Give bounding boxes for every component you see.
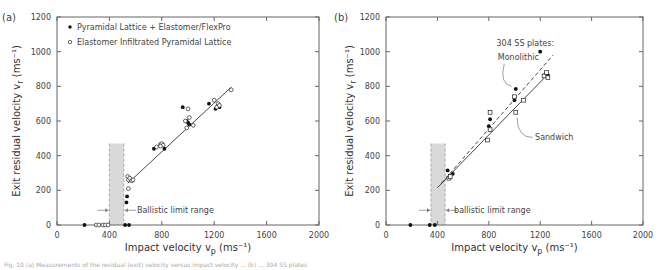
data-point-square [514,110,518,114]
data-point-open [218,104,222,108]
leader-line-sandwich [517,118,532,138]
data-point-square [546,76,550,80]
legend-label: Elastomer Infiltrated Pyramidal Lattice [77,38,231,47]
data-point-square [488,110,492,114]
data-point-filled [181,105,185,109]
x-tick-label: 1600 [256,231,276,240]
x-tick-label: 1200 [204,231,224,240]
data-point-open [229,88,233,92]
leader-line-monolithic [503,64,512,87]
figure-caption: Fig. 10 (a) Measurements of the residual… [4,261,307,269]
y-tick-label: 600 [36,117,51,126]
data-point-filled [514,87,518,91]
data-point-open [187,116,191,120]
y-tick-label: 800 [365,82,380,91]
y-tick-label: 400 [36,152,51,161]
x-axis-title: Impact velocity vp (ms⁻¹) [125,242,251,256]
chart-panel-a: 0400800120016002000020040060080010001200… [2,12,329,256]
x-tick-label: 1600 [581,231,601,240]
data-point-open [155,145,159,149]
data-point-square [448,175,452,179]
y-tick-label: 200 [365,186,380,195]
y-axis-title: Exit residual velocity vr (ms⁻¹) [344,45,358,197]
data-point-filled [446,169,450,173]
chart-panel-b: 0400800120016002000020040060080010001200… [334,12,653,256]
data-point-open [212,98,216,102]
x-tick-label: 400 [102,231,117,240]
annotation-text: Monolithic [498,53,539,62]
arrowhead-icon [427,208,430,212]
ballistic-limit-band [431,144,445,225]
panel-label: (a) [2,12,16,23]
data-point-open [126,187,130,191]
data-point-open [186,107,190,111]
data-point-square [513,95,517,99]
data-point-open [183,119,187,123]
y-tick-label: 1000 [31,48,51,57]
data-point-open [185,126,189,130]
x-tick-label: 800 [154,231,169,240]
data-point-filled [83,223,87,227]
data-point-open [159,144,163,148]
legend-label: Pyramidal Lattice + Elastomer/FlexPro [77,23,231,32]
legend-marker-open-icon [68,40,71,43]
ballistic-limit-band [109,144,123,225]
x-tick-label: 800 [481,231,496,240]
data-point-filled [123,223,127,227]
data-point-filled [488,117,492,121]
arrowhead-icon [125,208,128,212]
x-tick-label: 1200 [530,231,550,240]
y-tick-label: 0 [46,221,51,230]
data-point-filled [428,223,432,227]
plot-frame [386,17,643,225]
fit-line [441,55,553,183]
data-point-filled [409,223,413,227]
y-tick-label: 0 [375,221,380,230]
x-tick-label: 0 [54,231,59,240]
fit-line [437,74,548,188]
annotation-text: Sandwich [535,133,573,142]
x-tick-label: 0 [383,231,388,240]
x-tick-label: 400 [430,231,445,240]
legend-marker-filled-icon [68,25,71,28]
data-point-open [191,123,195,127]
y-tick-label: 400 [365,152,380,161]
y-tick-label: 1200 [360,13,380,22]
x-tick-label: 2000 [633,231,653,240]
data-point-filled [127,223,131,227]
data-point-open [106,223,110,227]
y-tick-label: 1200 [31,13,51,22]
y-tick-label: 200 [36,186,51,195]
y-axis-title: Exit residual velocity vr (ms⁻¹) [11,45,25,197]
data-point-filled [125,195,129,199]
x-tick-label: 2000 [309,231,329,240]
data-point-open [131,178,135,182]
y-tick-label: 600 [365,117,380,126]
data-point-filled [125,201,129,205]
annotation-text: 304 SS plates: [497,39,555,48]
y-tick-label: 1000 [360,48,380,57]
data-point-filled [207,102,211,106]
data-point-filled [433,223,437,227]
data-point-square [486,138,490,142]
annotation-text: ballistic limit range [454,206,531,215]
arrowhead-icon [105,208,108,212]
x-axis-title: Impact velocity vp (ms⁻¹) [451,242,577,256]
arrowhead-icon [446,208,449,212]
annotation-text: Ballistic limit range [137,206,214,215]
data-point-square [545,71,549,75]
data-point-filled [538,50,542,54]
y-tick-label: 800 [36,82,51,91]
data-point-square [522,98,526,102]
panel-label: (b) [334,12,348,23]
data-point-square [488,128,492,132]
data-point-open [97,223,101,227]
